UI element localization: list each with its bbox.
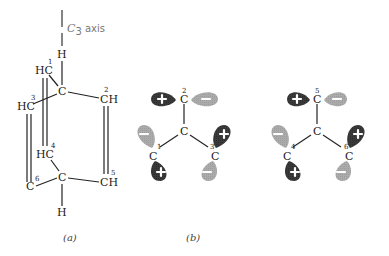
atom-c4: C [283,150,291,163]
atom-c1: C [149,150,157,163]
orbital-lobe-c3-upper-positive [213,125,230,148]
bond-center-c1 [160,135,178,147]
atom-c3-number: 3 [210,143,214,151]
atom-c1-number: 1 [48,58,52,66]
orbital-lobe-c6-upper-positive [347,125,364,148]
atom-c5-number: 5 [315,87,319,95]
bond-center-c3 [190,135,208,147]
orbital-lobe-c2-right-negative [191,92,218,106]
bond-c1-topc [49,75,58,86]
orbital-lobe-c5-left-positive [287,92,310,106]
atom-c2: CH [100,93,118,106]
bond-center-c4 [293,135,311,147]
orbital-lobe-c2-left-positive [151,92,176,106]
atom-c3-number: 3 [31,94,35,102]
atom-c6-number: 6 [344,143,349,151]
triptycene-orbital-diagram: C3 axis H C HC 1 CH 2 HC 3 HC 4 C [0,0,389,256]
bond-bottomc-c5 [68,178,99,182]
atom-center-c: C [180,125,188,138]
panel-b-orbitals-c1-c2-c3: C 2 C C 1 C 3 (b) [137,87,230,243]
atom-c5: CH [100,176,118,189]
atom-top-h: H [57,48,67,61]
atom-c6: C [345,150,353,163]
atom-c5-number: 5 [111,169,115,177]
bond-center-c6 [323,135,341,147]
c3-axis-label: C3 axis [67,22,105,37]
atom-c1-number: 1 [157,143,161,151]
atom-c6-number: 6 [35,175,40,183]
atom-c2-number: 2 [104,86,108,94]
orbital-lobe-c6-lower-negative [336,161,351,181]
orbital-lobe-c4-lower-positive [285,161,300,181]
atom-c4-number: 4 [291,143,296,151]
atom-top-c: C [58,85,66,98]
orbital-lobe-c3-lower-negative [202,161,217,181]
caption-a: (a) [63,232,77,243]
atom-c3: C [211,150,219,163]
orbital-lobe-c5-right-negative [324,92,347,106]
atom-c6: C [26,180,34,193]
atom-bottom-h: H [57,206,67,219]
bond-c4-bottomc [51,160,59,171]
bond-c3-topc [33,94,57,104]
atom-bottom-c: C [58,171,66,184]
atom-c2-number: 2 [182,87,186,95]
panel-a-structure: C3 axis H C HC 1 CH 2 HC 3 HC 4 C [17,10,118,243]
atom-center-c: C [313,125,321,138]
orbital-lobe-c4-upper-negative [271,125,288,148]
orbital-lobe-c1-upper-negative [137,125,154,148]
atom-c4-number: 4 [51,142,56,150]
orbital-lobe-c1-lower-positive [151,161,166,181]
panel-b-orbitals-c4-c5-c6: C 5 C C 4 C 6 [271,87,364,181]
bond-topc-c2 [68,92,99,98]
caption-b: (b) [186,232,200,243]
